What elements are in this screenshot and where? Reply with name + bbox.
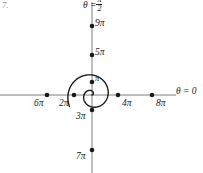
tick-label-5pi: 5π [95,48,105,58]
spiral-point-8pi [150,93,155,98]
spiral-point-1pi [90,80,95,85]
spiral-point-3pi [90,108,95,113]
tick-label-6pi: 6π [34,99,44,109]
vertical-axis-label: θ =π2 [83,0,102,13]
polar-axis-label: θ = 0 [176,87,197,97]
tick-label-2pi: 2π [59,99,69,109]
polar-spiral-figure: 7. 6π 2π 4π 8π π 9π 5π 3π 7π θ = 0 θ =π2 [0,0,203,173]
spiral-curve [68,75,108,107]
tick-label-3pi: 3π [76,112,86,122]
spiral-point-4pi [116,93,121,98]
tick-label-pi: π [95,74,99,83]
fraction-denominator: 2 [96,4,102,13]
spiral-point-7pi [90,148,95,153]
spiral-point-5pi [90,53,95,58]
tick-label-8pi: 8π [156,99,166,109]
spiral-point-markers [45,24,155,153]
spiral-point-2pi [72,93,77,98]
tick-label-9pi: 9π [95,19,105,29]
spiral-point-6pi [45,93,50,98]
pi-over-two-fraction: π2 [96,0,102,13]
tick-label-7pi: 7π [76,152,86,162]
spiral-point-9pi [90,24,95,29]
tick-label-4pi: 4π [122,99,132,109]
vertical-axis-label-prefix: θ = [83,0,96,10]
